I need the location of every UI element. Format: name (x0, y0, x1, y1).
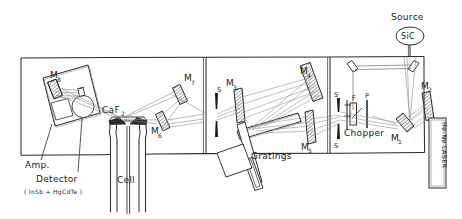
label-mirror-m7-sub: 7 (191, 79, 195, 86)
label-he-ne-laser: He-Ne LASER (440, 122, 448, 169)
label-chopper: Chopper (344, 128, 384, 138)
label-caf2-sub: 2 (121, 110, 125, 117)
label-mirror-m8-sub: 8 (57, 76, 61, 83)
label-slit-mid-upper: S (334, 91, 338, 99)
label-mirror-m4-sub: 4 (307, 72, 311, 79)
diagram-canvas: Source SiC He-Ne LASER M 1 M 2 M 3 M 4 M… (0, 0, 462, 219)
label-mirror-m3-sub: 3 (233, 84, 237, 91)
label-gratings: Gratings (251, 151, 292, 161)
label-amplifier: Amp. (25, 160, 50, 170)
label-mirror-m1-sub: 1 (398, 138, 402, 145)
label-polarizer: P (365, 92, 369, 100)
label-cell: Cell (117, 175, 135, 185)
label-sic: SiC (401, 32, 415, 41)
label-detector-materials: ( InSb + HgCdTe ) (24, 188, 82, 196)
label-slit-mid-lower: S (334, 142, 338, 150)
label-filter: F (352, 94, 356, 102)
label-detector: Detector (36, 174, 78, 184)
label-caf2: CaF (102, 105, 120, 115)
label-mirror-m5-sub: 5 (308, 147, 312, 154)
optical-diagram-figure: Source SiC He-Ne LASER M 1 M 2 M 3 M 4 M… (0, 0, 462, 219)
label-slit-entrance: S (217, 86, 221, 94)
label-source: Source (391, 12, 424, 22)
label-mirror-m2-sub: 2 (428, 86, 432, 93)
label-mirror-m6-sub: 6 (158, 132, 162, 139)
